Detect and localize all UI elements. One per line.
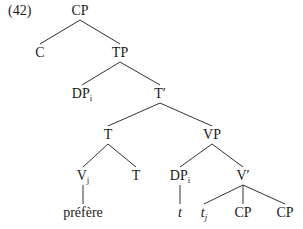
branch-vbar-trace_tj (204, 185, 243, 204)
tree-node-vbar: V′ (236, 168, 249, 184)
node-index: i (188, 175, 191, 185)
tree-node-tp: TP (112, 45, 128, 61)
branch-tp-tbar (120, 62, 160, 85)
node-label: t (178, 205, 182, 220)
node-label: CP (276, 205, 293, 220)
node-label: CP (71, 3, 88, 18)
node-label: VP (203, 127, 221, 142)
branch-cp_root-tp (80, 20, 120, 44)
tree-node-cp-1: CP (234, 205, 251, 221)
branch-tbar-vp (160, 103, 212, 126)
branch-tp-dp_spec (82, 62, 120, 85)
node-label: C (35, 45, 44, 60)
tree-node-t-head: T (104, 127, 113, 143)
node-label: préfère (63, 205, 103, 220)
tree-node-v-j: Vj (77, 168, 90, 184)
tree-node-tbar: T′ (154, 86, 166, 102)
node-label: V′ (236, 168, 249, 183)
tree-node-prefere: préfère (63, 205, 103, 221)
node-label: T′ (154, 86, 166, 101)
tree-node-t-low: T (132, 168, 141, 184)
tree-node-vp: VP (203, 127, 221, 143)
node-label: T (132, 168, 141, 183)
tree-node-cp-2: CP (276, 205, 293, 221)
tree-node-cp-root: CP (71, 3, 88, 19)
node-label: DP (72, 86, 90, 101)
tree-node-trace-tj: tj (201, 205, 207, 221)
branch-vbar-cp_2 (243, 185, 285, 204)
branch-cp_root-c (40, 20, 80, 44)
node-label: DP (170, 168, 188, 183)
branch-t_head-v_j (83, 144, 108, 167)
branch-tbar-t_head (108, 103, 160, 126)
node-label: V (77, 168, 87, 183)
node-label: CP (234, 205, 251, 220)
tree-branches (0, 0, 303, 229)
tree-node-dp-spec: DPi (72, 86, 92, 102)
node-label: T (104, 127, 113, 142)
tree-node-trace-t: t (178, 205, 182, 221)
node-index: j (87, 175, 90, 185)
branch-vp-dp_vp (180, 144, 212, 167)
node-index: j (205, 212, 208, 222)
branch-t_head-t_low (108, 144, 136, 167)
node-index: i (90, 93, 93, 103)
branch-vp-vbar (212, 144, 243, 167)
tree-node-c: C (35, 45, 44, 61)
node-label: TP (112, 45, 128, 60)
tree-node-dp-vp: DPi (170, 168, 190, 184)
